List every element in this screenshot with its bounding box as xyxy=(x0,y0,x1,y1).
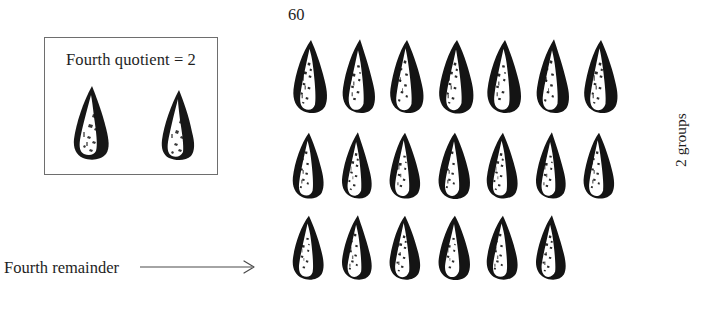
cone xyxy=(432,38,480,118)
cone xyxy=(480,38,528,118)
cone xyxy=(480,214,524,284)
cone-row xyxy=(286,38,626,118)
remainder-label: Fourth remainder xyxy=(4,258,119,278)
cone xyxy=(286,38,334,118)
cone-row xyxy=(286,131,626,203)
cone xyxy=(335,214,379,284)
cone xyxy=(286,214,330,284)
quotient-box: Fourth quotient = 2 xyxy=(44,37,218,175)
cone xyxy=(335,131,379,203)
quotient-cone xyxy=(69,84,113,162)
cone xyxy=(383,38,431,118)
cone xyxy=(383,214,427,284)
cone-grid xyxy=(286,38,626,296)
cone xyxy=(432,131,476,203)
cone xyxy=(529,131,573,203)
cone-row xyxy=(286,214,626,284)
quotient-box-caption: Fourth quotient = 2 xyxy=(45,50,217,70)
cone xyxy=(286,131,330,203)
quotient-cone xyxy=(159,88,199,162)
total-label: 60 xyxy=(288,5,305,25)
groups-label: 2 groups xyxy=(672,100,690,180)
rightwards-arrow-icon xyxy=(140,258,258,276)
cone xyxy=(577,131,621,203)
cone xyxy=(529,38,577,118)
cone xyxy=(335,38,383,118)
division-illustration: Fourth quotient = 2 60 2 groups Fourth r… xyxy=(0,0,716,315)
cone xyxy=(480,131,524,203)
cone xyxy=(529,214,573,284)
cone xyxy=(383,131,427,203)
cone xyxy=(432,214,476,284)
cone xyxy=(577,38,625,118)
